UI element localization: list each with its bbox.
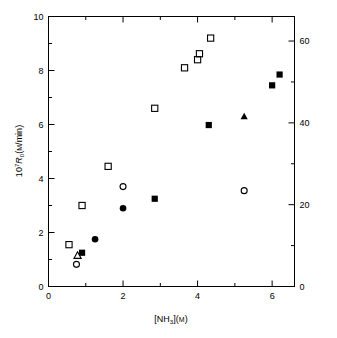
y-right-tick-label: 40	[300, 118, 310, 128]
data-point-filled-square	[276, 71, 282, 77]
x-tick-label: 6	[270, 291, 275, 301]
x-tick-label: 4	[195, 291, 200, 301]
data-point-filled-square	[269, 82, 275, 88]
x-tick-label: 2	[121, 291, 126, 301]
y-axis-title-base: 10	[14, 167, 24, 177]
svg-text:107R0(M/min): 107R0(M/min)	[13, 125, 25, 177]
y-axis-title-post: /min)	[14, 125, 24, 145]
y-tick-label: 0	[38, 282, 43, 292]
data-point-filled-square	[152, 196, 158, 202]
y-tick-label: 4	[38, 174, 43, 184]
y-tick-label: 2	[38, 228, 43, 238]
y-tick-label: 10	[33, 12, 43, 22]
x-axis-title-post: )	[185, 314, 188, 324]
data-point-filled-square	[79, 250, 85, 256]
y-right-tick-label: 0	[300, 282, 305, 292]
scatter-chart-figure: 024602468100204060 [NH3](M) 107R0(M/min)	[0, 0, 337, 338]
y-tick-label: 6	[38, 120, 43, 130]
figure-background	[0, 0, 337, 338]
x-tick-label: 0	[46, 291, 51, 301]
y-axis-title: 107R0(M/min)	[13, 125, 25, 177]
plot-canvas: 024602468100204060 [NH3](M) 107R0(M/min)	[0, 0, 337, 338]
data-point-filled-circle	[120, 205, 127, 212]
y-right-tick-label: 60	[300, 36, 310, 46]
data-point-filled-circle	[92, 236, 99, 243]
data-point-filled-square	[206, 122, 212, 128]
y-tick-label: 8	[38, 66, 43, 76]
x-axis-title-pre: [NH	[154, 314, 170, 324]
y-right-tick-label: 20	[300, 200, 310, 210]
